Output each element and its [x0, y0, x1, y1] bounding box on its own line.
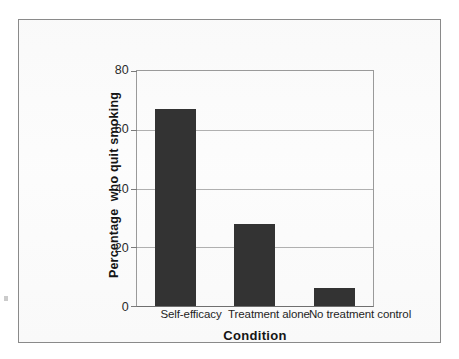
x-axis-title: Condition — [136, 328, 374, 343]
scan-artifact-speck — [4, 296, 8, 301]
y-tick-mark-20 — [131, 247, 137, 248]
bar-self-efficacy[interactable] — [155, 109, 196, 306]
y-tick-mark-80 — [131, 71, 137, 72]
y-tick-mark-0 — [131, 306, 137, 307]
bar-no-treatment-control[interactable] — [314, 288, 355, 306]
x-axis-category-labels: Self-efficacy Treatment alone No treatme… — [136, 308, 374, 326]
y-tick-mark-60 — [131, 130, 137, 131]
plot-area — [136, 70, 374, 307]
figure-frame: 80 60 40 20 0 Self-efficacy Treatment al… — [18, 19, 441, 343]
y-tick-mark-40 — [131, 189, 137, 190]
x-label-no-treatment-control: No treatment control — [296, 308, 424, 320]
y-axis-title: Percentage who quit smoking — [107, 65, 121, 305]
y-tick-label-0: 0 — [122, 300, 129, 314]
bar-treatment-alone[interactable] — [234, 224, 275, 306]
